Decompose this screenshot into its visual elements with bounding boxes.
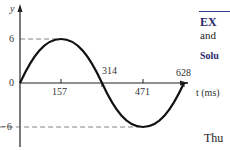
y-tick-label-0: 0 [9, 78, 14, 88]
example-heading: EX [200, 15, 217, 30]
body-text-and: and [200, 29, 216, 41]
y-tick-label-6: 6 [9, 34, 14, 44]
y-axis-arrow-icon [18, 4, 23, 12]
solution-heading: Solu [200, 50, 219, 61]
x-axis-label: t (ms) [196, 88, 220, 98]
x-tick-label-628: 628 [176, 68, 191, 78]
example-rule [199, 11, 230, 12]
body-text-thus: Thu [204, 131, 223, 146]
y-tick-label-neg6: −6 [1, 122, 12, 132]
x-tick-label-314: 314 [102, 66, 117, 76]
x-tick-label-157: 157 [52, 87, 67, 97]
y-axis-label: y [10, 4, 14, 14]
x-tick-label-471: 471 [135, 87, 150, 97]
